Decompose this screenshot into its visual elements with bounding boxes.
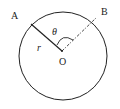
label-A: A xyxy=(11,11,18,21)
angle-arc-theta xyxy=(57,37,73,45)
radius-line-OA xyxy=(31,24,62,51)
dashed-line-OB xyxy=(62,18,96,51)
label-O: O xyxy=(59,57,66,67)
center-point-O xyxy=(61,50,63,52)
label-theta: θ xyxy=(52,27,57,37)
label-B: B xyxy=(101,7,108,17)
label-r: r xyxy=(37,43,41,53)
